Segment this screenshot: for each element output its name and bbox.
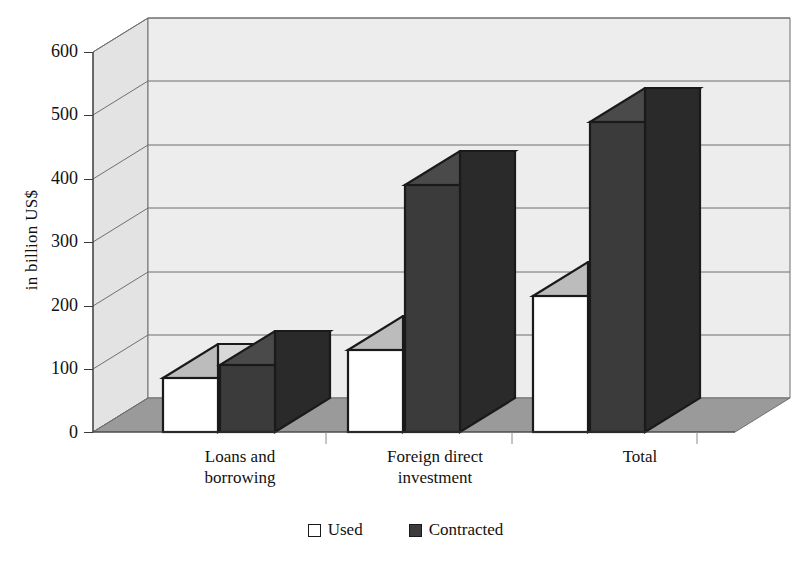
chart-legend: Used Contracted (0, 520, 811, 540)
chart-container: in billion US$ 600 500 400 300 200 100 0 (0, 0, 811, 575)
legend-label-used: Used (328, 520, 363, 540)
legend-label-contracted: Contracted (429, 520, 504, 540)
plot-area (0, 0, 811, 510)
category-label-loans-line1: Loans and (150, 446, 330, 467)
white-square-icon (308, 524, 321, 537)
dark-square-icon (409, 524, 422, 537)
legend-item-used[interactable]: Used (308, 520, 363, 540)
legend-item-contracted[interactable]: Contracted (409, 520, 504, 540)
category-label-loans-line2: borrowing (150, 467, 330, 488)
category-label-fdi: Foreign direct investment (340, 446, 530, 489)
category-label-loans: Loans and borrowing (150, 446, 330, 489)
x-axis-tick-marks (326, 432, 697, 444)
category-label-fdi-line1: Foreign direct (340, 446, 530, 467)
category-label-total-line1: Total (560, 446, 720, 467)
category-label-fdi-line2: investment (340, 467, 530, 488)
bar-total-contracted (590, 88, 700, 432)
bar-fdi-contracted (405, 151, 515, 432)
category-label-total: Total (560, 446, 720, 467)
